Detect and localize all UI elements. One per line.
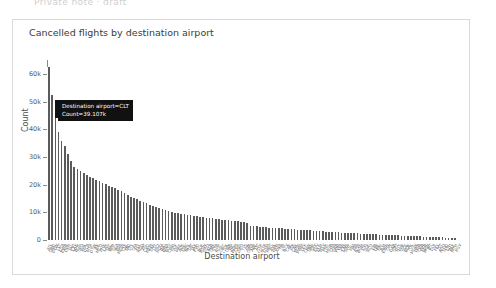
y-axis-tick <box>43 129 47 130</box>
tooltip-value-line: Count=39.107k <box>62 110 129 118</box>
y-axis-tick-label: 40k <box>29 125 41 133</box>
y-axis-tick <box>43 212 47 213</box>
chart-tooltip: Destination airport=CLT Count=39.107k <box>58 100 133 121</box>
y-axis-tick-label: 20k <box>29 181 41 189</box>
y-axis-tick <box>43 157 47 158</box>
y-axis-tick <box>43 102 47 103</box>
chart-card: Cancelled flights by destination airport… <box>12 19 470 275</box>
y-axis-tick-label: 60k <box>29 70 41 78</box>
plot-area[interactable] <box>47 60 456 240</box>
bar[interactable] <box>453 238 456 240</box>
y-axis-tick-label: 0 <box>37 236 41 244</box>
y-axis-tick <box>43 74 47 75</box>
chart-title: Cancelled flights by destination airport <box>29 27 214 38</box>
y-axis-tick-label: 10k <box>29 208 41 216</box>
y-axis-tick-label: 30k <box>29 153 41 161</box>
y-axis-tick-label: 50k <box>29 98 41 106</box>
tooltip-category-line: Destination airport=CLT <box>62 102 129 110</box>
page-top-cutoff-text: Private note · draft <box>34 0 127 6</box>
y-axis-tick <box>43 185 47 186</box>
plot-frame: 010k20k30k40k50k60k ATLORDDFWCLTLGAEWRDE… <box>47 60 456 240</box>
x-axis-title: Destination airport <box>13 252 471 261</box>
